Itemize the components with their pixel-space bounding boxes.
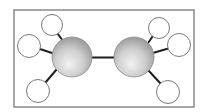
carbon-atom-c2 <box>114 37 154 77</box>
hydrogen-atom-h3 <box>27 80 50 103</box>
hydrogen-atoms-layer <box>18 15 191 104</box>
hydrogen-atom-h2 <box>18 35 41 58</box>
bond-c2-h6 <box>148 70 161 84</box>
hydrogen-atom-h5 <box>168 34 191 57</box>
hydrogen-atom-h1 <box>42 15 63 36</box>
carbon-atom-c1 <box>52 37 92 77</box>
ethane-diagram <box>0 0 205 112</box>
hydrogen-atom-h4 <box>149 18 170 39</box>
bond-c1-h3 <box>45 69 57 83</box>
hydrogen-atom-h6 <box>157 81 180 104</box>
